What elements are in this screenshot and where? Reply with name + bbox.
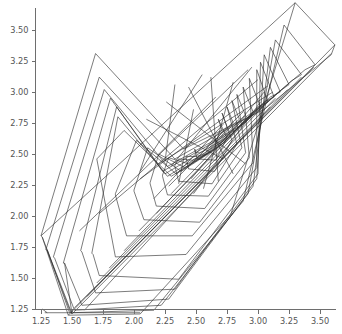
- x-tick-label: 3.25: [280, 316, 298, 326]
- x-tick-label: 2.00: [125, 316, 143, 326]
- hull-chord: [74, 67, 313, 308]
- hull-chord: [165, 85, 175, 162]
- y-tick-label: 1.50: [10, 273, 28, 283]
- y-tick-label: 2.00: [10, 211, 28, 221]
- y-tick-label: 3.00: [10, 87, 28, 97]
- hull-chord: [72, 54, 331, 314]
- y-tick-layer: 1.251.501.752.002.252.502.753.003.253.50: [10, 25, 35, 314]
- y-tick-label: 3.25: [10, 56, 28, 66]
- hull-chord: [97, 90, 288, 283]
- hull-chord: [47, 249, 69, 312]
- hull-chord: [124, 107, 263, 251]
- x-tick-label: 3.50: [311, 316, 329, 326]
- x-tick-label: 2.50: [187, 316, 205, 326]
- hull-chord: [159, 97, 216, 154]
- x-tick-label: 1.25: [32, 316, 50, 326]
- hull-chord: [109, 98, 275, 268]
- hull-series-layer: [41, 3, 335, 315]
- y-tick-label: 3.50: [10, 25, 28, 35]
- y-tick-label: 2.75: [10, 118, 28, 128]
- x-tick-label: 1.50: [63, 316, 81, 326]
- x-tick-label: 2.25: [156, 316, 174, 326]
- y-tick-label: 2.25: [10, 180, 28, 190]
- hull-chord: [159, 92, 273, 164]
- x-tick-layer: 1.251.501.752.002.252.502.753.003.253.50: [32, 310, 329, 326]
- hull-chord: [156, 119, 245, 213]
- hull-polygon: [92, 62, 274, 279]
- chart-canvas: 1.251.501.752.002.252.502.753.003.253.50…: [0, 0, 342, 334]
- y-tick-label: 2.50: [10, 149, 28, 159]
- x-tick-label: 2.75: [218, 316, 236, 326]
- onion-hull-plot: 1.251.501.752.002.252.502.753.003.253.50…: [0, 0, 342, 334]
- x-tick-label: 1.75: [94, 316, 112, 326]
- hull-polygon: [63, 47, 289, 305]
- y-tick-label: 1.75: [10, 242, 28, 252]
- y-tick-label: 1.25: [10, 304, 28, 314]
- x-tick-label: 3.00: [249, 316, 267, 326]
- hull-polygon: [134, 87, 253, 222]
